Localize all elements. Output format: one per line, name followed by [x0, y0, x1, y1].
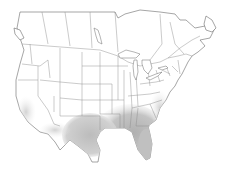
range-atlantic-coast	[150, 90, 170, 126]
range-florida	[138, 129, 154, 161]
range-california-coast	[16, 96, 36, 128]
range-map	[0, 0, 235, 177]
range-texas	[62, 113, 118, 157]
newfoundland	[204, 16, 216, 32]
